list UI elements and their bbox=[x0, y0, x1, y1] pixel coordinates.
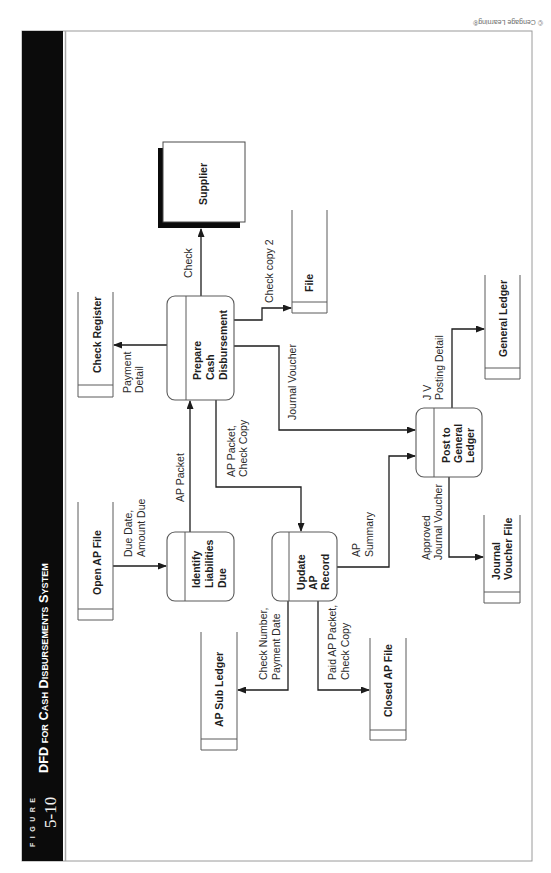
figure-number: 5-10 bbox=[41, 797, 60, 828]
process-prepare-cash-disbursement: Prepare Cash Disbursement bbox=[167, 296, 234, 400]
data-store-label: Open AP File bbox=[91, 530, 103, 595]
data-store-label: AP Sub Ledger bbox=[213, 652, 225, 727]
figure-page: © Cengage Learning® FIGURE 5-10 DFD for … bbox=[0, 0, 551, 873]
flow-label: Check Number, bbox=[257, 608, 269, 680]
process-label: Due bbox=[216, 568, 228, 588]
data-store-label: Closed AP File bbox=[382, 644, 394, 717]
flow-label: Payment bbox=[121, 351, 133, 393]
flow-label: AP Packet, bbox=[225, 425, 237, 477]
flow-label: Posting Detail bbox=[433, 335, 445, 400]
dfd-diagram: © Cengage Learning® FIGURE 5-10 DFD for … bbox=[0, 0, 551, 873]
flow-label: J V bbox=[421, 385, 433, 400]
figure-title: DFD for Cash Disbursements System bbox=[37, 563, 51, 773]
data-store-label: General Ledger bbox=[497, 280, 509, 357]
process-label: Disbursement bbox=[217, 309, 229, 380]
flow-label: AP Packet bbox=[174, 453, 186, 502]
data-store-label: File bbox=[303, 274, 315, 292]
process-label: Prepare bbox=[191, 341, 203, 380]
process-label: Ledger bbox=[464, 428, 476, 463]
process-label: Liabilities bbox=[203, 539, 215, 588]
process-label: Update bbox=[295, 554, 307, 590]
process-label: AP bbox=[307, 575, 319, 590]
process-label: Post to bbox=[440, 427, 452, 463]
process-post-to-general-ledger: Post to General Ledger bbox=[416, 408, 482, 477]
flow-label: Check Copy bbox=[237, 419, 249, 477]
flow-label: AP bbox=[350, 543, 362, 557]
entity-supplier: Supplier bbox=[158, 142, 245, 228]
data-store-label: Voucher File bbox=[502, 518, 514, 580]
copyright-notice: © Cengage Learning® bbox=[472, 18, 543, 26]
flow-label: Journal Voucher bbox=[286, 344, 298, 420]
entity-label: Supplier bbox=[197, 163, 209, 205]
process-label: Record bbox=[319, 554, 331, 590]
flow-label: Detail bbox=[133, 366, 145, 393]
process-label: Cash bbox=[204, 354, 216, 380]
flow-label: Due Date, bbox=[122, 510, 134, 557]
data-store-label: Check Register bbox=[91, 297, 103, 373]
flow-label: Payment Date bbox=[270, 613, 282, 680]
process-update-ap-record: Update AP Record bbox=[272, 532, 337, 601]
flow-label: Check copy 2 bbox=[263, 239, 275, 303]
flow-label: Journal Voucher bbox=[432, 484, 444, 560]
figure-rotated-group: FIGURE 5-10 DFD for Cash Disbursements S… bbox=[22, 31, 532, 861]
data-store-label: Journal bbox=[490, 542, 502, 580]
flow-label: Check bbox=[182, 247, 194, 278]
flow-label: Paid AP Packet, bbox=[326, 605, 338, 680]
process-identify-liabilities-due: Identify Liabilities Due bbox=[167, 532, 234, 601]
flow-label: Amount Due bbox=[135, 498, 147, 557]
flow-label: Check Copy bbox=[339, 622, 351, 680]
flow-label: Approved bbox=[420, 515, 432, 560]
flow-label: Summary bbox=[363, 511, 375, 557]
process-label: General bbox=[452, 424, 464, 463]
process-label: Identify bbox=[190, 551, 202, 588]
